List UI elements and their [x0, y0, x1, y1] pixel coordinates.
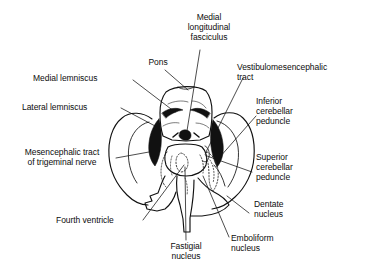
leader-pons — [165, 70, 188, 90]
dentate-nucleus-inner-dotted — [210, 160, 214, 183]
label-vestibulomesencephalic-tract: Vestibulomesencephalic tract — [237, 62, 363, 82]
right-lemniscus-streak — [190, 108, 210, 118]
leader-medial-longitudinal-fasciculus — [186, 50, 200, 137]
leader-lines-group — [116, 50, 256, 240]
leader-fastigial-nucleus — [185, 167, 186, 240]
label-pons: Pons — [139, 57, 177, 67]
label-medial-longitudinal-fasciculus: Medial longitudinal fasciculus — [172, 12, 246, 43]
leader-dentate-nucleus — [227, 196, 249, 213]
label-lateral-lemniscus: Lateral lemniscus — [22, 102, 119, 112]
fastigial-nucleus-dotted — [176, 153, 188, 172]
right-peduncle-dark-wedge — [211, 120, 224, 167]
leader-inferior-cerebellar-peduncle — [219, 116, 256, 158]
label-dentate-nucleus: Dentate nucleus — [254, 199, 310, 219]
mlf-left-tick — [173, 133, 178, 137]
mlf-right-tick — [194, 133, 199, 137]
leader-fourth-ventricle — [143, 165, 184, 220]
label-fastigial-nucleus: Fastigial nucleus — [158, 241, 214, 261]
label-medial-lemniscus: Medial lemniscus — [33, 73, 132, 83]
superior-cerebellar-peduncle-arc — [214, 165, 225, 186]
label-emboliform-nucleus: Emboliform nucleus — [231, 233, 301, 253]
label-mesencephalic-tract-of-trigeminal-nerve: Mesencephalic tract of trigeminal nerve — [8, 147, 116, 167]
anatomy-group — [109, 87, 254, 232]
pons-texture-1 — [168, 101, 188, 104]
left-inferior-lobule-outline — [145, 176, 176, 211]
pons-texture-2 — [192, 101, 206, 108]
label-superior-cerebellar-peduncle: Superior cerebellar peduncle — [256, 152, 322, 183]
label-fourth-ventricle: Fourth ventricle — [56, 215, 144, 225]
anatomical-figure: Medial longitudinal fasciculus Pons Vest… — [0, 0, 365, 277]
right-inferior-lobule-outline — [191, 178, 229, 216]
leader-medial-lemniscus — [133, 80, 175, 112]
medial-longitudinal-fasciculus-marks — [179, 130, 191, 141]
label-inferior-cerebellar-peduncle: Inferior cerebellar peduncle — [256, 96, 322, 127]
pons-texture-4 — [196, 123, 209, 128]
pons-texture-3 — [163, 123, 179, 126]
leader-lateral-lemniscus — [121, 108, 157, 127]
